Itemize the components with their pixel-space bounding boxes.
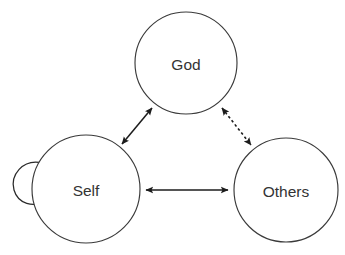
node-self[interactable]: Self <box>32 135 140 243</box>
node-others-label: Others <box>263 183 310 200</box>
edge-self-god-line <box>122 108 152 144</box>
diagram-canvas: God Self Others <box>0 0 345 255</box>
edge-god-others-line <box>222 108 251 145</box>
edge-god-others <box>222 108 251 145</box>
node-god-label: God <box>171 56 200 73</box>
node-others[interactable]: Others <box>234 138 338 242</box>
node-god[interactable]: God <box>135 12 237 114</box>
relationship-diagram: God Self Others <box>0 0 345 255</box>
node-self-label: Self <box>73 182 100 199</box>
edge-self-god <box>122 108 152 144</box>
